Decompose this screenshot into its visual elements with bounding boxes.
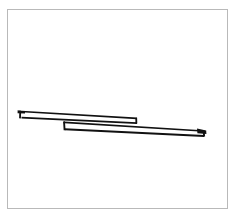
upper-plank <box>18 110 137 123</box>
upper-plank-left-tip-mark <box>18 110 25 113</box>
lower-plank-right-tip-mark <box>197 129 206 134</box>
drawing-canvas <box>0 0 237 222</box>
line-art-illustration <box>0 0 237 222</box>
lower-plank-left-cap <box>64 121 65 130</box>
lower-plank-right-cap <box>204 130 205 136</box>
upper-plank-bottom-edge <box>22 118 138 124</box>
upper-plank-top-edge <box>22 112 138 119</box>
